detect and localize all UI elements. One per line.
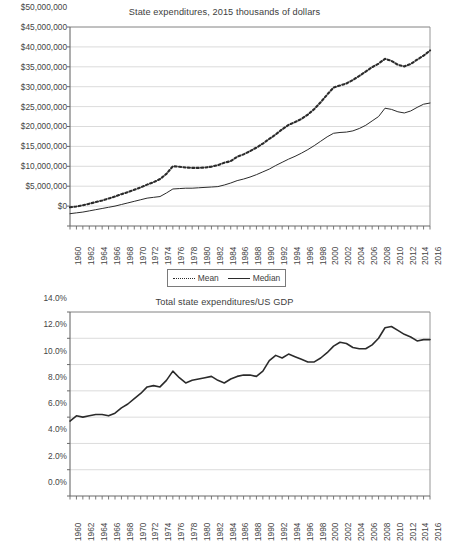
x-axis-tick-label: 2016 (433, 247, 443, 265)
legend-entry-median: Median (228, 274, 280, 282)
x-axis-tick-label: 2014 (420, 523, 430, 541)
x-axis-tick-label: 2002 (343, 523, 353, 541)
x-axis-tick-label: 1992 (279, 247, 289, 265)
x-axis-tick-label: 2014 (420, 247, 430, 265)
x-axis-tick-label: 1996 (305, 523, 315, 541)
y-axis-tick-label: $20,000,000 (21, 121, 67, 131)
x-axis-tick-label: 2012 (408, 247, 418, 265)
chart-2-y-axis-labels: 0.0%2.0%4.0%6.0%8.0%10.0%12.0%14.0% (0, 295, 67, 495)
solid-line-icon (228, 278, 250, 279)
x-axis-tick-label: 1998 (318, 523, 328, 541)
legend-label-median: Median (253, 274, 280, 282)
x-axis-tick-label: 1966 (112, 523, 122, 541)
x-axis-tick-label: 1980 (202, 523, 212, 541)
y-axis-tick-label: 12.0% (43, 319, 67, 329)
chart-1-plot-area (0, 20, 449, 232)
x-axis-tick-label: 2008 (382, 247, 392, 265)
x-axis-tick-label: 1988 (253, 523, 263, 541)
x-axis-tick-label: 1972 (150, 247, 160, 265)
y-axis-tick-label: $35,000,000 (21, 62, 67, 72)
x-axis-tick-label: 1978 (189, 247, 199, 265)
x-axis-tick-label: 2006 (369, 523, 379, 541)
y-axis-tick-label: $10,000,000 (21, 161, 67, 171)
x-axis-tick-label: 1994 (292, 523, 302, 541)
x-axis-tick-label: 1960 (73, 523, 83, 541)
chart-2-x-axis-labels: 1960196219641966196819701972197419761978… (0, 509, 449, 545)
y-axis-tick-label: 0.0% (48, 477, 67, 487)
chart-expenditures-gdp-ratio: Total state expenditures/US GDP 0.0%2.0%… (0, 295, 449, 527)
x-axis-tick-label: 1998 (318, 247, 328, 265)
x-axis-tick-label: 2010 (395, 247, 405, 265)
x-axis-tick-label: 1982 (215, 247, 225, 265)
x-axis-tick-label: 1990 (266, 523, 276, 541)
y-axis-tick-label: 10.0% (43, 346, 67, 356)
y-axis-tick-label: 2.0% (48, 451, 67, 461)
x-axis-tick-label: 1968 (125, 523, 135, 541)
x-axis-tick-label: 1992 (279, 523, 289, 541)
chart-1-legend: Mean Median (167, 269, 286, 287)
x-axis-tick-label: 1974 (163, 247, 173, 265)
x-axis-tick-label: 1964 (99, 247, 109, 265)
x-axis-tick-label: 2004 (356, 523, 366, 541)
x-axis-tick-label: 1994 (292, 247, 302, 265)
y-axis-tick-label: $25,000,000 (21, 102, 67, 112)
x-axis-tick-label: 2000 (330, 247, 340, 265)
y-axis-tick-label: $15,000,000 (21, 141, 67, 151)
x-axis-tick-label: 1968 (125, 247, 135, 265)
x-axis-tick-label: 1996 (305, 247, 315, 265)
x-axis-tick-label: 1980 (202, 247, 212, 265)
dotted-line-icon (173, 278, 195, 279)
x-axis-tick-label: 2016 (433, 523, 443, 541)
x-axis-tick-label: 2002 (343, 247, 353, 265)
y-axis-tick-label: 6.0% (48, 398, 67, 408)
x-axis-tick-label: 1970 (138, 523, 148, 541)
x-axis-tick-label: 2006 (369, 247, 379, 265)
x-axis-tick-label: 2004 (356, 247, 366, 265)
x-axis-tick-label: 2008 (382, 523, 392, 541)
y-axis-tick-label: $5,000,000 (25, 181, 67, 191)
x-axis-tick-label: 1960 (73, 247, 83, 265)
chart-2-plot-area (0, 309, 449, 509)
y-axis-tick-label: $45,000,000 (21, 22, 67, 32)
chart-1-y-axis-labels: $0$5,000,000$10,000,000$15,000,000$20,00… (0, 0, 67, 212)
y-axis-tick-label: $30,000,000 (21, 82, 67, 92)
y-axis-tick-label: $40,000,000 (21, 42, 67, 52)
chart-1-x-axis-labels: 1960196219641966196819701972197419761978… (0, 233, 449, 273)
y-axis-tick-label: 14.0% (43, 293, 67, 303)
x-axis-tick-label: 1974 (163, 523, 173, 541)
x-axis-tick-label: 1990 (266, 247, 276, 265)
x-axis-tick-label: 1986 (240, 523, 250, 541)
x-axis-tick-label: 1976 (176, 247, 186, 265)
y-axis-tick-label: $50,000,000 (21, 2, 67, 12)
x-axis-tick-label: 1984 (228, 523, 238, 541)
x-axis-tick-label: 1970 (138, 247, 148, 265)
x-axis-tick-label: 1964 (99, 523, 109, 541)
y-axis-tick-label: $0 (58, 201, 67, 211)
chart-2-svg (0, 309, 449, 509)
chart-1-title: State expenditures, 2015 thousands of do… (0, 7, 449, 17)
x-axis-tick-label: 2010 (395, 523, 405, 541)
legend-entry-mean: Mean (173, 274, 219, 282)
chart-state-expenditures: State expenditures, 2015 thousands of do… (0, 0, 449, 295)
x-axis-tick-label: 1986 (240, 247, 250, 265)
x-axis-tick-label: 1978 (189, 523, 199, 541)
x-axis-tick-label: 1976 (176, 523, 186, 541)
x-axis-tick-label: 1988 (253, 247, 263, 265)
x-axis-tick-label: 1982 (215, 523, 225, 541)
x-axis-tick-label: 2000 (330, 523, 340, 541)
chart-1-svg (0, 20, 449, 232)
x-axis-tick-label: 1984 (228, 247, 238, 265)
x-axis-tick-label: 1962 (86, 247, 96, 265)
x-axis-tick-label: 1966 (112, 247, 122, 265)
x-axis-tick-label: 2012 (408, 523, 418, 541)
x-axis-tick-label: 1972 (150, 523, 160, 541)
y-axis-tick-label: 8.0% (48, 372, 67, 382)
y-axis-tick-label: 4.0% (48, 424, 67, 434)
legend-label-mean: Mean (198, 274, 219, 282)
x-axis-tick-label: 1962 (86, 523, 96, 541)
